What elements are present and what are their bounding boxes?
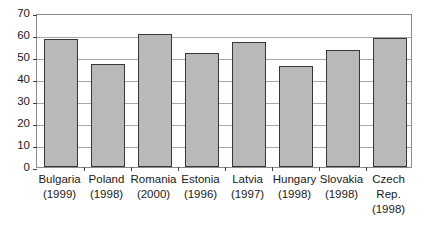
x-tick-label: Romania (2000) xyxy=(130,172,177,202)
bar-chart-figure: 010203040506070 Bulgaria (1999)Poland (1… xyxy=(0,0,431,233)
y-axis-tick-mark xyxy=(33,15,37,16)
x-axis-tick-mark xyxy=(366,167,367,171)
y-tick-label: 0 xyxy=(24,162,30,174)
bar xyxy=(232,42,266,167)
bar xyxy=(185,53,219,167)
y-axis-tick-mark xyxy=(33,147,37,148)
x-tick-label: Slovakia (1998) xyxy=(318,172,365,202)
y-tick-label: 60 xyxy=(17,30,30,42)
y-axis: 010203040506070 xyxy=(0,0,34,233)
y-axis-tick-mark xyxy=(33,81,37,82)
y-axis-tick-mark xyxy=(33,59,37,60)
x-axis-tick-mark xyxy=(84,167,85,171)
y-tick-label: 10 xyxy=(17,140,30,152)
x-axis-tick-mark xyxy=(178,167,179,171)
bar xyxy=(279,66,313,167)
y-tick-label: 70 xyxy=(17,8,30,20)
x-tick-label: Bulgaria (1999) xyxy=(36,172,83,202)
y-tick-label: 30 xyxy=(17,96,30,108)
x-tick-label: Estonia (1996) xyxy=(177,172,224,202)
x-axis-tick-mark xyxy=(272,167,273,171)
y-axis-tick-mark xyxy=(33,103,37,104)
x-tick-label: Czech Rep. (1998) xyxy=(365,172,412,217)
x-tick-label: Hungary (1998) xyxy=(271,172,318,202)
y-tick-label: 20 xyxy=(17,118,30,130)
bars-group xyxy=(37,15,411,167)
bar xyxy=(138,34,172,167)
x-axis-tick-mark xyxy=(319,167,320,171)
x-axis: Bulgaria (1999)Poland (1998)Romania (200… xyxy=(36,172,412,233)
bar xyxy=(44,39,78,167)
x-tick-label: Latvia (1997) xyxy=(224,172,271,202)
y-tick-label: 50 xyxy=(17,52,30,64)
x-axis-tick-mark xyxy=(131,167,132,171)
bar xyxy=(326,50,360,167)
y-axis-tick-mark xyxy=(33,37,37,38)
bar xyxy=(373,38,407,167)
plot-area xyxy=(36,14,412,168)
x-axis-tick-mark xyxy=(225,167,226,171)
bar xyxy=(91,64,125,167)
y-axis-tick-mark xyxy=(33,125,37,126)
x-tick-label: Poland (1998) xyxy=(83,172,130,202)
y-axis-tick-mark xyxy=(33,169,37,170)
y-tick-label: 40 xyxy=(17,74,30,86)
